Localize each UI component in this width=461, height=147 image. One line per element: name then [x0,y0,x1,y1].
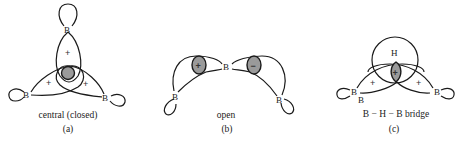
boron-atom-right: B [102,93,108,103]
sign-left-lobe: + [370,78,375,88]
central-overlap-region [62,67,75,80]
boron-atom-left: B [23,90,29,100]
panel-a-closed-bond: B B B + + + [9,4,125,106]
boron-atom-top: B [64,25,70,35]
caption-a: central (closed) [39,110,98,120]
sign-right-lobe: + [416,78,421,88]
caption-b: open [217,110,235,120]
hydrogen-atom: H [391,48,398,58]
sign-bridge: + [393,68,398,78]
panel-letter-b: (b) [221,124,232,134]
panel-letter-a: (a) [63,124,74,134]
right-boron-lobe-lower [397,82,430,93]
right-boron-back-lobe [441,88,454,99]
sign-right-lobe: + [83,79,88,89]
top-boron-back-lobe [59,4,77,26]
left-boron-lobe-lower [360,82,397,93]
boron-atom-center: B [223,62,229,72]
panel-c-bridge-bond: + H B B B + + [337,37,454,105]
caption-c: B − H − B bridge [363,109,429,119]
boron-atom-right: B [434,87,440,97]
panel-letter-c: (c) [389,124,400,134]
boron-atom-left: B [351,87,357,97]
panel-b-open-bond: + − B B B [164,56,293,115]
sign-negative: − [251,61,256,71]
boron-atom-left-sub: B [358,95,364,105]
sign-left-lobe: + [46,78,51,88]
left-boron-back-lobe [9,89,24,101]
sign-top-lobe: + [65,48,70,58]
left-boron-lobe-upper [357,64,424,88]
boron-atom-right: B [276,95,282,105]
boron-atom-left: B [172,92,178,102]
right-boron-back-lobe [110,94,125,106]
right-boron-back-lobe [281,99,294,114]
sign-positive: + [196,61,201,71]
left-boron-back-lobe [337,88,350,99]
